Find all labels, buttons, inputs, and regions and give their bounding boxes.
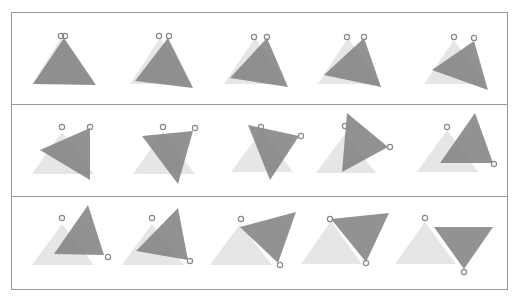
triangle-frames [32,33,497,274]
frame-12 [122,208,193,265]
frame-6 [32,124,94,180]
moving-triangle [33,38,96,85]
pivot-marker-icon [422,215,427,220]
pivot-marker-icon [238,216,243,221]
pivot-marker-icon [251,34,256,39]
pivot-marker-icon [277,262,282,267]
pivot-marker-icon [149,215,154,220]
frame-7 [133,124,198,184]
pivot-marker-icon [160,124,165,129]
pivot-marker-icon [166,33,171,38]
frame-13 [210,212,296,268]
pivot-marker-icon [59,124,64,129]
pivot-marker-icon [298,133,303,138]
frame-8 [231,124,304,180]
pivot-marker-icon [344,34,349,39]
pivot-marker-icon [444,124,449,129]
frame-10 [417,113,497,172]
pivot-marker-icon [187,258,192,263]
frame-1 [32,33,96,85]
pivot-marker-icon [156,33,161,38]
frame-11 [32,205,111,265]
pivot-marker-icon [387,144,392,149]
pivot-marker-icon [192,125,197,130]
pivot-marker-icon [451,34,456,39]
frame-4 [318,34,381,87]
pivot-marker-icon [491,161,496,166]
frame-14 [301,213,389,266]
frame-9 [316,113,393,173]
frame-5 [424,34,488,90]
pivot-marker-icon [105,254,110,259]
moving-triangle [136,208,188,260]
pivot-marker-icon [461,269,466,274]
frame-2 [130,33,193,88]
pivot-marker-icon [59,215,64,220]
pivot-marker-icon [471,35,476,40]
frame-15 [395,215,493,274]
frame-3 [224,34,288,87]
rotating-triangle-diagram [0,0,520,298]
